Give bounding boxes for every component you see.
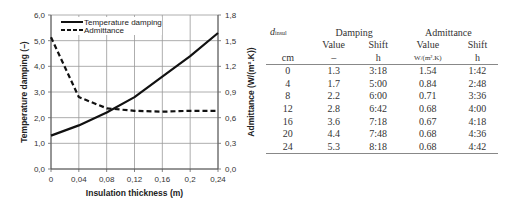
x-tick-label: 0,12 — [127, 175, 143, 184]
damping-shift-header: Shift — [358, 39, 399, 52]
table-cell: 5:00 — [358, 78, 399, 91]
table-cell: 7:18 — [358, 116, 399, 129]
y-right-tick-label: 0,6 — [225, 114, 237, 123]
d-subscript: insul — [275, 30, 287, 36]
table-cell: 0.67 — [399, 116, 457, 129]
unit-cm: cm — [266, 52, 310, 65]
table-row: 245.38:180.684:42 — [266, 141, 498, 154]
unit-hours: h — [457, 52, 498, 65]
x-tick-label: 0 — [49, 175, 54, 184]
table-cell: 8:18 — [358, 141, 399, 154]
table-row: 01.33:181.541:42 — [266, 65, 498, 78]
damping-admittance-table: dinsul Damping Admittance Value Shift Va… — [266, 26, 498, 154]
table-header-row-2: Value Shift Value Shift — [266, 39, 498, 52]
y-axis-left-label: Temperature damping (–) — [19, 41, 29, 143]
y-left-tick-label: 4,0 — [34, 62, 46, 71]
y-left-tick-label: 1,0 — [34, 139, 46, 148]
table-cell: 7:48 — [358, 128, 399, 141]
table-cell: 8 — [266, 90, 310, 103]
y-right-tick-label: 0,3 — [225, 139, 237, 148]
table-row: 122.86:420.684:00 — [266, 103, 498, 116]
y-right-tick-label: 0,0 — [225, 165, 237, 174]
empty-header-cell — [266, 39, 310, 52]
table-cell: 0.68 — [399, 141, 457, 154]
damping-group-header: Damping — [310, 26, 399, 39]
y-left-tick-label: 3,0 — [34, 88, 46, 97]
table-cell: 2.2 — [310, 90, 358, 103]
table-cell: 1:42 — [457, 65, 498, 78]
table-cell: 0.71 — [399, 90, 457, 103]
table-cell: 0.84 — [399, 78, 457, 91]
table-cell: 2.8 — [310, 103, 358, 116]
y-axis-right-label: Admittance (W/(m².K)) — [246, 47, 256, 136]
x-axis-label: Insulation thickness (m) — [86, 188, 183, 198]
table-cell: 3:18 — [358, 65, 399, 78]
x-tick-label: 0,2 — [185, 175, 197, 184]
y-left-tick-label: 5,0 — [34, 37, 46, 46]
unit-dimensionless: – — [310, 52, 358, 65]
y-right-tick-label: 0,9 — [225, 88, 237, 97]
x-tick-label: 0,16 — [155, 175, 171, 184]
admittance-value-header: Value — [399, 39, 457, 52]
table-cell: 0 — [266, 65, 310, 78]
table-cell: 1.3 — [310, 65, 358, 78]
y-right-tick-label: 1,8 — [225, 11, 237, 20]
unit-hours: h — [358, 52, 399, 65]
table-cell: 6:00 — [358, 90, 399, 103]
line-chart: 0,00,01,00,32,00,63,00,94,01,25,01,56,01… — [0, 0, 260, 203]
table-cell: 4:00 — [457, 103, 498, 116]
table-cell: 24 — [266, 141, 310, 154]
table-cell: 4:42 — [457, 141, 498, 154]
y-right-tick-label: 1,5 — [225, 37, 237, 46]
table-row: 41.75:000.842:48 — [266, 78, 498, 91]
table-units-row: cm – h W/(m².K) h — [266, 52, 498, 65]
table-cell: 6:42 — [358, 103, 399, 116]
table-cell: 3.6 — [310, 116, 358, 129]
table-row: 163.67:180.674:18 — [266, 116, 498, 129]
table-header-row-1: dinsul Damping Admittance — [266, 26, 498, 39]
y-left-tick-label: 0,0 — [34, 165, 46, 174]
table-row: 82.26:000.713:36 — [266, 90, 498, 103]
damping-value-header: Value — [310, 39, 358, 52]
chart-canvas: 0,00,01,00,32,00,63,00,94,01,25,01,56,01… — [0, 0, 260, 203]
table-cell: 3:36 — [457, 90, 498, 103]
x-tick-label: 0,24 — [210, 175, 226, 184]
admittance-shift-header: Shift — [457, 39, 498, 52]
table-cell: 1.7 — [310, 78, 358, 91]
table-cell: 4:36 — [457, 128, 498, 141]
table-row: 204.47:480.684:36 — [266, 128, 498, 141]
table-cell: 20 — [266, 128, 310, 141]
table-cell: 1.54 — [399, 65, 457, 78]
table-cell: 4:18 — [457, 116, 498, 129]
table-cell: 0.68 — [399, 103, 457, 116]
y-left-tick-label: 2,0 — [34, 114, 46, 123]
x-tick-label: 0,04 — [71, 175, 87, 184]
table-cell: 16 — [266, 116, 310, 129]
y-right-tick-label: 1,2 — [225, 62, 237, 71]
table-cell: 4.4 — [310, 128, 358, 141]
table-body: 01.33:181.541:4241.75:000.842:4882.26:00… — [266, 65, 498, 154]
y-left-tick-label: 6,0 — [34, 11, 46, 20]
table-cell: 0.68 — [399, 128, 457, 141]
x-tick-label: 0,08 — [99, 175, 115, 184]
legend-label: Admittance — [84, 26, 125, 35]
admittance-group-header: Admittance — [399, 26, 498, 39]
table-cell: 12 — [266, 103, 310, 116]
table-cell: 5.3 — [310, 141, 358, 154]
unit-admittance: W/(m².K) — [399, 52, 457, 65]
d-insul-header: dinsul — [266, 26, 310, 39]
table-cell: 4 — [266, 78, 310, 91]
data-table-container: dinsul Damping Admittance Value Shift Va… — [266, 26, 498, 154]
table-cell: 2:48 — [457, 78, 498, 91]
